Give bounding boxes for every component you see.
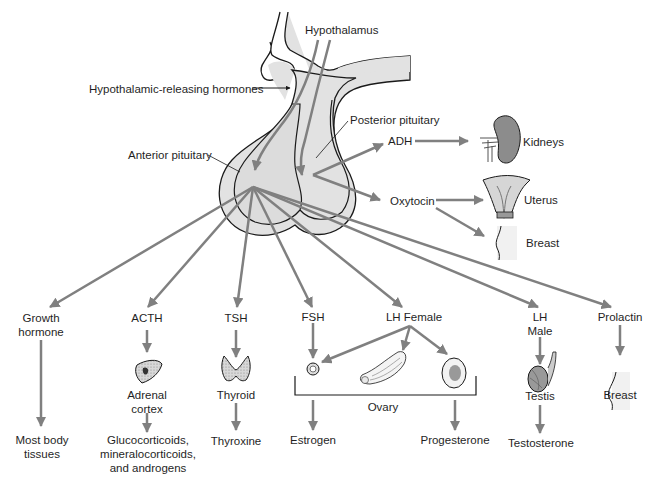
label-ovary: Ovary [368,400,399,414]
label-posterior-pituitary: Posterior pituitary [350,113,439,127]
label-breast-prolactin: Breast [603,388,636,402]
label-anterior-pituitary: Anterior pituitary [128,148,212,162]
corpus-luteum-icon [442,358,466,388]
label-lh-female: LH Female [386,310,442,324]
label-adrenal-cortex: Adrenal cortex [127,388,167,416]
label-breast-oxytocin: Breast [526,236,559,250]
label-prolactin: Prolactin [598,310,643,324]
label-testosterone: Testosterone [508,436,574,450]
label-growth-hormone: Growth hormone [18,311,63,339]
label-glucocorticoids: Glucocorticoids, mineralocorticoids, and… [100,433,196,475]
label-oxytocin: Oxytocin [390,194,435,208]
label-thyroxine: Thyroxine [211,434,262,448]
thyroid-icon [222,356,250,381]
label-progesterone: Progesterone [420,433,489,447]
label-estrogen: Estrogen [290,433,336,447]
adrenal-icon [136,360,162,383]
label-uterus: Uterus [524,193,558,207]
breast-icon-posterior [496,226,517,260]
label-releasing-hormones: Hypothalamic-releasing hormones [89,82,264,96]
label-thyroid: Thyroid [217,388,255,402]
label-testis: Testis [525,389,554,403]
label-acth: ACTH [131,311,162,325]
uterus-icon [483,176,530,219]
label-fsh: FSH [302,310,325,324]
label-adh: ADH [388,134,412,148]
label-kidneys: Kidneys [523,135,564,149]
ovulation-icon [360,352,405,384]
testis-icon [528,352,556,392]
label-most-body-tissues: Most body tissues [15,433,68,461]
kidney-icon [480,116,520,163]
follicle-icon [307,363,319,375]
label-lh-male: LH Male [528,310,553,338]
label-tsh: TSH [225,311,248,325]
label-hypothalamus: Hypothalamus [305,23,379,37]
